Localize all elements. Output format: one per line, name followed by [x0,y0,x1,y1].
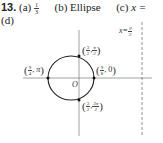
point-right-label: (98, 0) [96,64,116,76]
point-top-label: (32,π2) [82,44,100,56]
point-top [78,55,81,58]
origin-label: O [72,80,78,89]
point-right [93,77,96,80]
point-bottom [78,99,81,102]
point-bottom-label: (32,3π2) [82,100,103,112]
point-left-label: (94, π) [24,64,44,76]
directrix-label: x=92 [119,26,132,37]
point-left [47,77,50,80]
